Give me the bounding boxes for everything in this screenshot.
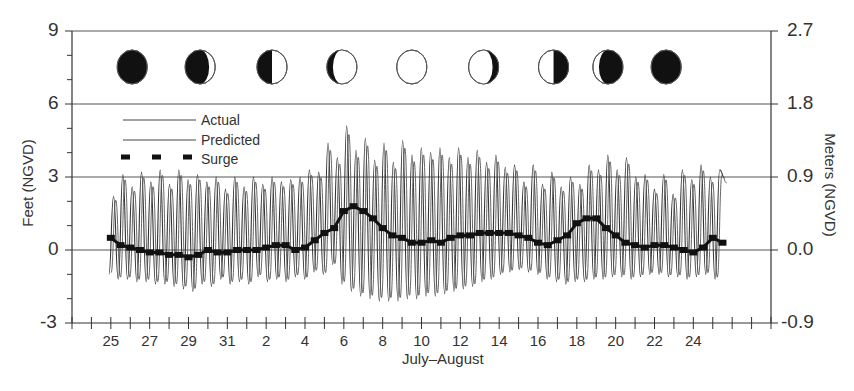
surge-marker (709, 235, 717, 241)
surge-marker (437, 240, 445, 246)
moon-waning-crescent-icon (593, 50, 623, 84)
moon-new-icon (651, 50, 681, 84)
x-tick-label: 24 (685, 332, 702, 349)
surge-marker (311, 237, 319, 243)
legend-label-actual: Actual (201, 112, 240, 128)
surge-marker (223, 249, 231, 255)
surge-marker (185, 254, 193, 260)
moon-waning-gibbous-icon (469, 50, 499, 84)
y-right-tick-0-9: 0.9 (787, 165, 813, 187)
surge-marker (204, 247, 212, 253)
surge-marker (602, 225, 610, 231)
surge-marker (641, 245, 649, 251)
surge-marker (262, 245, 270, 251)
surge-marker (563, 232, 571, 238)
surge-marker (689, 249, 697, 255)
moon-terminator (475, 50, 493, 84)
x-tick-label: 8 (378, 332, 386, 349)
surge-marker (534, 240, 542, 246)
surge-marker (388, 232, 396, 238)
x-tick-label: 22 (646, 332, 663, 349)
surge-marker (631, 242, 639, 248)
x-tick-label: 12 (452, 332, 469, 349)
surge-marker (398, 235, 406, 241)
surge-marker (485, 230, 493, 236)
y-right-tick-1-8: 1.8 (787, 92, 813, 114)
moon-terminator (599, 50, 617, 84)
surge-marker (427, 237, 435, 243)
moon-terminator (333, 50, 351, 84)
y-left-tick-6: 6 (48, 92, 59, 114)
moon-half (554, 50, 569, 84)
surge-marker (418, 240, 426, 246)
y-right-tick-neg0-9: -0.9 (781, 311, 814, 333)
surge-marker (505, 230, 513, 236)
surge-marker (243, 247, 251, 253)
surge-marker (252, 247, 260, 253)
surge-marker (573, 220, 581, 226)
x-tick-label: 25 (102, 332, 119, 349)
surge-marker (583, 215, 591, 221)
y-right-axis-title: Meters (NGVD) (822, 133, 839, 236)
x-tick-label: 31 (219, 332, 236, 349)
surge-marker (660, 242, 668, 248)
surge-marker (301, 245, 309, 251)
x-axis-title: July–August (402, 350, 484, 367)
y-left-axis-title: Feet (NGVD) (19, 139, 36, 227)
surge-marker (456, 232, 464, 238)
surge-marker (107, 235, 115, 241)
surge-marker (369, 215, 377, 221)
x-tick-label: 29 (180, 332, 197, 349)
surge-marker (194, 252, 202, 258)
surge-marker (214, 249, 222, 255)
y-right-tick-0-0: 0.0 (787, 238, 813, 260)
x-tick-label: 4 (301, 332, 309, 349)
surge-marker (718, 240, 726, 246)
legend-label-surge: Surge (201, 151, 238, 167)
surge-marker (117, 242, 125, 248)
surge-marker (330, 225, 338, 231)
x-tick-label: 6 (340, 332, 348, 349)
surge-marker (340, 208, 348, 214)
moon-full-icon (397, 50, 427, 84)
moon-waxing-crescent-icon (185, 50, 215, 84)
surge-marker (272, 242, 280, 248)
surge-marker (476, 230, 484, 236)
moon-first-quarter-icon (257, 50, 287, 84)
x-tick-label: 27 (141, 332, 158, 349)
surge-marker (291, 247, 299, 253)
surge-marker (126, 245, 134, 251)
moon-last-quarter-icon (539, 50, 569, 84)
surge-marker (495, 230, 503, 236)
surge-marker (379, 225, 387, 231)
moon-terminator (191, 50, 209, 84)
surge-marker (515, 232, 523, 238)
surge-marker (359, 208, 367, 214)
moon-phase-row (117, 50, 681, 84)
surge-marker (136, 247, 144, 253)
y-right-tick-2-7: 2.7 (787, 19, 813, 41)
surge-marker (233, 247, 241, 253)
x-tick-label: 10 (413, 332, 430, 349)
surge-marker (592, 215, 600, 221)
y-left-tick-neg3: -3 (40, 311, 57, 333)
surge-marker (155, 249, 163, 255)
surge-marker (524, 235, 532, 241)
surge-marker (466, 232, 474, 238)
x-tick-label: 18 (568, 332, 585, 349)
surge-marker (408, 240, 416, 246)
surge-marker (670, 245, 678, 251)
surge-marker (350, 203, 358, 209)
y-left-tick-3: 3 (48, 165, 59, 187)
x-tick-label: 20 (607, 332, 624, 349)
moon-half (257, 50, 272, 84)
surge-marker (175, 252, 183, 258)
x-tick-label: 2 (262, 332, 270, 349)
surge-marker (165, 252, 173, 258)
legend-swatches (121, 120, 196, 157)
moon-waxing-gibbous-icon (327, 50, 357, 84)
surge-marker (282, 242, 290, 248)
surge-marker (146, 249, 154, 255)
surge-marker (621, 240, 629, 246)
surge-marker (612, 232, 620, 238)
